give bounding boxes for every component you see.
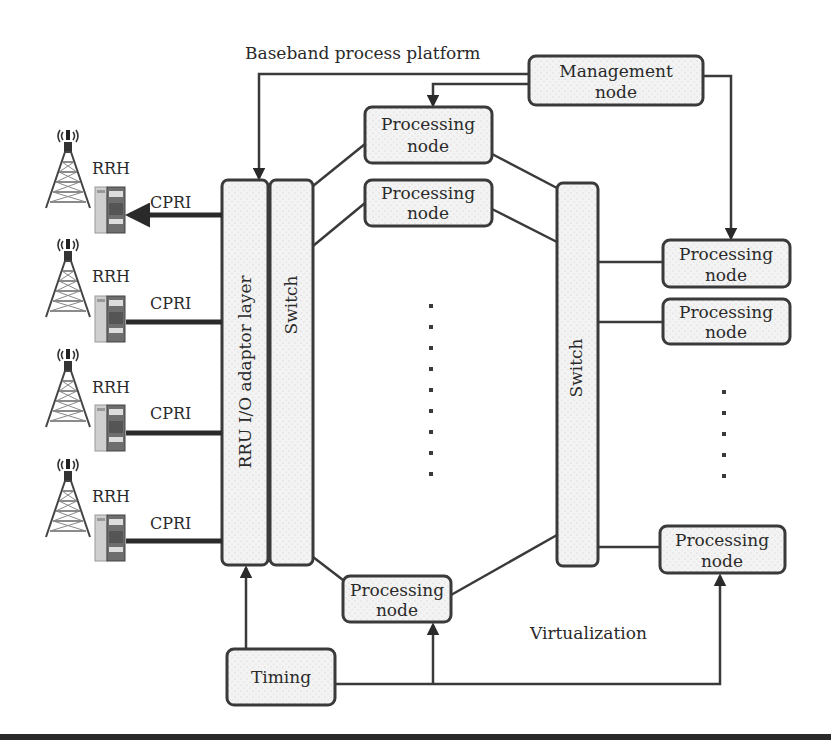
platform-title: Baseband process platform (245, 43, 480, 63)
processing-node-right-3[interactable]: Processing node (660, 526, 785, 573)
processing-node-label: Processing (679, 244, 773, 264)
processing-node-right-2[interactable]: Processing node (663, 299, 790, 344)
timing-label: Timing (251, 667, 311, 687)
rrh-device-icon (95, 515, 125, 561)
rrh-unit-2[interactable]: RRH CPRI (46, 239, 222, 342)
processing-node-label: Processing (381, 114, 475, 134)
processing-node-label: node (701, 551, 743, 571)
right-switch-label: Switch (566, 338, 586, 397)
mgmt-to-right-proc-node-arrow (703, 76, 731, 238)
timing-box[interactable]: Timing (227, 649, 335, 705)
rrh-label: RRH (92, 378, 130, 397)
processing-node-label: node (376, 600, 418, 620)
rrh-device-icon (95, 405, 125, 451)
rru-layer-label: RRU I/O adaptor layer (235, 275, 255, 469)
cell-tower-icon (46, 130, 90, 208)
rru-io-adaptor-layer[interactable]: RRU I/O adaptor layer (222, 180, 268, 565)
bottom-rule (0, 734, 831, 740)
processing-node-label: node (705, 265, 747, 285)
rrh-unit-4[interactable]: RRH CPRI (46, 459, 222, 561)
cpri-label: CPRI (150, 514, 191, 533)
rrh-label: RRH (92, 159, 130, 178)
management-node-line2: node (595, 82, 637, 102)
processing-node-top-1[interactable]: Processing node (365, 107, 492, 163)
right-ellipsis (722, 390, 726, 478)
rrh-device-icon (95, 187, 125, 233)
c-ran-architecture-diagram: Baseband process platform Management nod… (0, 0, 831, 754)
left-switch-label: Switch (281, 275, 301, 334)
mgmt-to-proc-node-1-arrow (433, 84, 529, 105)
left-switch[interactable]: Switch (270, 180, 313, 565)
rrh-unit-3[interactable]: RRH CPRI (46, 349, 222, 451)
center-ellipsis (429, 304, 433, 476)
cell-tower-icon (46, 459, 90, 537)
processing-node-label: Processing (350, 580, 444, 600)
processing-node-label: Processing (675, 530, 769, 550)
processing-node-right-1[interactable]: Processing node (663, 240, 790, 287)
processing-node-label: node (407, 203, 449, 223)
rrh-device-icon (95, 296, 125, 342)
processing-node-label: Processing (679, 302, 773, 322)
rrh-unit-1[interactable]: RRH CPRI (46, 130, 222, 233)
cell-tower-icon (46, 239, 90, 317)
management-node[interactable]: Management node (529, 56, 703, 105)
right-switch[interactable]: Switch (557, 183, 598, 566)
processing-node-label: node (705, 322, 747, 342)
rrh-label: RRH (92, 487, 130, 506)
rrh-label: RRH (92, 267, 130, 286)
processing-node-top-2[interactable]: Processing node (365, 180, 492, 226)
processing-node-label: Processing (381, 183, 475, 203)
cell-tower-icon (46, 349, 90, 427)
management-node-line1: Management (559, 61, 673, 81)
processing-node-label: node (407, 136, 449, 156)
processing-node-bottom[interactable]: Processing node (343, 576, 451, 622)
cpri-label: CPRI (150, 193, 191, 212)
cpri-label: CPRI (150, 404, 191, 423)
cpri-label: CPRI (150, 294, 191, 313)
virtualization-label: Virtualization (529, 623, 647, 643)
